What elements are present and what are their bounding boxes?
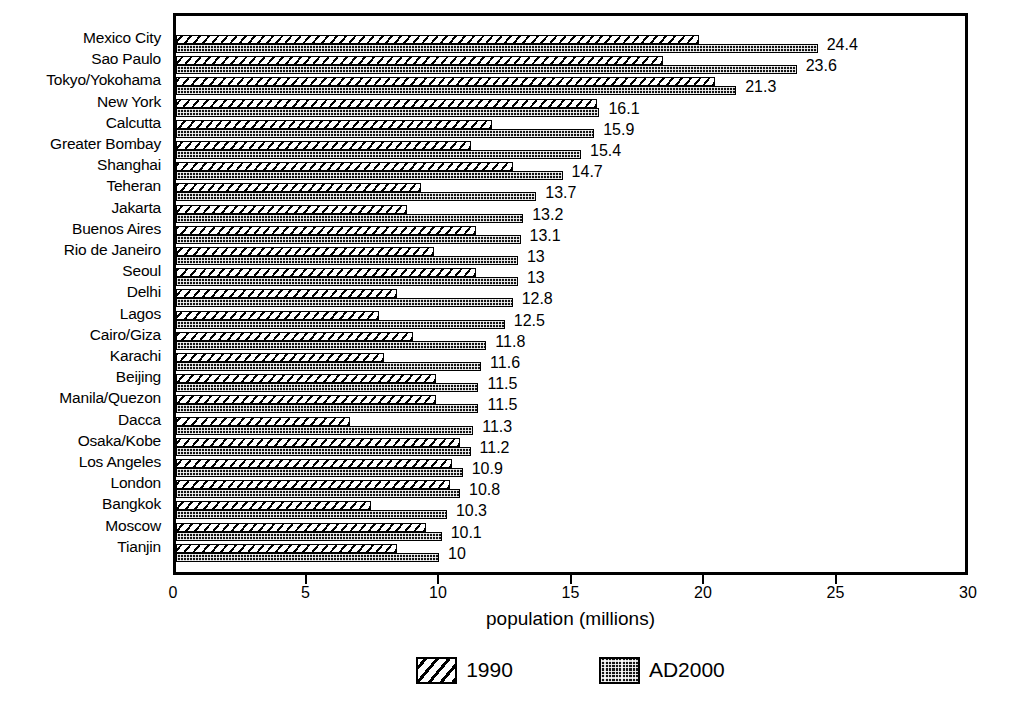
bar-ad2000 <box>176 320 505 329</box>
bar-value-label: 15.9 <box>603 122 634 138</box>
category-label: Moscow <box>105 518 161 534</box>
category-label: London <box>110 475 161 491</box>
hatch-swatch-icon <box>416 657 457 684</box>
bar-value-label: 11.3 <box>482 419 512 435</box>
bar-1990 <box>176 438 460 447</box>
bar-value-label: 12.8 <box>522 291 553 307</box>
bar-value-label: 10.1 <box>451 525 482 541</box>
bar-1990 <box>176 459 452 468</box>
category-label: Teheran <box>106 178 161 194</box>
bar-value-label: 13 <box>527 270 545 286</box>
category-label: Jakarta <box>112 200 161 216</box>
bar-ad2000 <box>176 65 797 74</box>
bar-ad2000 <box>176 44 818 53</box>
bar-value-label: 10.3 <box>456 503 487 519</box>
x-tick <box>437 575 439 584</box>
bar-1990 <box>176 205 407 214</box>
bar-value-label: 13 <box>527 249 545 265</box>
x-tick-label: 0 <box>169 584 178 602</box>
bar-ad2000 <box>176 383 478 392</box>
bar-1990 <box>176 501 371 510</box>
bar-ad2000 <box>176 532 442 541</box>
bar-1990 <box>176 247 434 256</box>
bar-1990 <box>176 35 699 44</box>
bar-ad2000 <box>176 86 736 95</box>
category-axis: Mexico CitySao PauloTokyo/YokohamaNew Yo… <box>0 13 168 575</box>
bar-ad2000 <box>176 489 460 498</box>
x-tick-label: 15 <box>562 584 580 602</box>
bar-value-label: 23.6 <box>806 58 837 74</box>
bar-ad2000 <box>176 362 481 371</box>
category-label: Beijing <box>116 369 161 385</box>
category-label: Mexico City <box>83 30 161 46</box>
bar-value-label: 10.8 <box>469 482 500 498</box>
bar-ad2000 <box>176 235 521 244</box>
bars-layer: 24.423.621.316.115.915.414.713.713.213.1… <box>176 16 965 572</box>
bar-ad2000 <box>176 256 518 265</box>
category-label: Delhi <box>127 284 161 300</box>
legend-label-ad2000: AD2000 <box>649 659 725 681</box>
bar-ad2000 <box>176 341 486 350</box>
bar-1990 <box>176 99 597 108</box>
bar-1990 <box>176 544 397 553</box>
category-label: Osaka/Kobe <box>78 433 161 449</box>
category-label: Karachi <box>110 348 161 364</box>
category-label: Tokyo/Yokohama <box>46 72 161 88</box>
category-label: Lagos <box>120 306 161 322</box>
dotted-swatch-icon <box>599 657 640 684</box>
bar-value-label: 11.6 <box>490 355 520 371</box>
bar-1990 <box>176 374 436 383</box>
category-label: Calcutta <box>106 115 161 131</box>
bar-value-label: 16.1 <box>608 101 639 117</box>
bar-1990 <box>176 311 379 320</box>
bar-value-label: 12.5 <box>514 313 545 329</box>
bar-1990 <box>176 120 492 129</box>
x-tick <box>702 575 704 584</box>
bar-1990 <box>176 226 476 235</box>
category-label: New York <box>97 94 161 110</box>
bar-1990 <box>176 480 450 489</box>
bar-1990 <box>176 56 663 65</box>
bar-value-label: 13.2 <box>532 207 563 223</box>
bar-value-label: 15.4 <box>590 143 621 159</box>
bar-1990 <box>176 183 421 192</box>
bar-value-label: 14.7 <box>572 164 603 180</box>
category-label: Sao Paulo <box>91 51 161 67</box>
bar-1990 <box>176 353 384 362</box>
x-axis-tick-labels: 051015202530 <box>173 584 968 604</box>
bar-1990 <box>176 268 476 277</box>
bar-value-label: 11.2 <box>480 440 510 456</box>
bar-ad2000 <box>176 108 599 117</box>
bar-ad2000 <box>176 447 471 456</box>
x-tick <box>305 575 307 584</box>
bar-ad2000 <box>176 298 513 307</box>
category-label: Los Angeles <box>79 454 161 470</box>
bar-value-label: 11.8 <box>495 334 525 350</box>
x-tick-label: 30 <box>959 584 977 602</box>
bar-ad2000 <box>176 468 463 477</box>
bar-1990 <box>176 523 426 532</box>
category-label: Bangkok <box>102 496 161 512</box>
category-label: Rio de Janeiro <box>64 242 161 258</box>
bar-ad2000 <box>176 171 563 180</box>
bar-ad2000 <box>176 214 523 223</box>
legend-entry-ad2000: AD2000 <box>599 657 725 684</box>
bar-value-label: 10.9 <box>472 461 503 477</box>
bar-value-label: 13.1 <box>530 228 561 244</box>
category-label: Seoul <box>122 263 161 279</box>
bar-ad2000 <box>176 404 478 413</box>
x-tick <box>570 575 572 584</box>
x-tick-label: 10 <box>429 584 447 602</box>
bar-ad2000 <box>176 277 518 286</box>
bar-value-label: 11.5 <box>487 376 517 392</box>
bar-ad2000 <box>176 150 581 159</box>
bar-ad2000 <box>176 192 536 201</box>
bar-1990 <box>176 289 397 298</box>
x-tick <box>835 575 837 584</box>
category-label: Dacca <box>118 412 161 428</box>
bar-ad2000 <box>176 510 447 519</box>
category-label: Manila/Quezon <box>59 390 161 406</box>
x-tick-label: 25 <box>827 584 845 602</box>
x-tick-label: 20 <box>694 584 712 602</box>
bar-1990 <box>176 141 471 150</box>
